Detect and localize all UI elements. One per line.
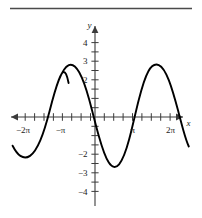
y-tick-label-neg2: −2 [78, 149, 88, 159]
x-axis-label: x [186, 118, 191, 128]
x-tick-label-neg2pi: −2π [16, 125, 31, 135]
y-tick-label-neg4: −4 [78, 187, 88, 197]
sinusoid-curve [13, 65, 189, 167]
x-tick-label-negpi: −π [56, 125, 66, 135]
y-tick-label-3: 3 [83, 56, 88, 66]
y-axis-arrow-up [92, 26, 99, 33]
x-tick-label-pi: π [131, 125, 136, 135]
y-tick-label-neg3: −3 [78, 168, 88, 178]
y-tick-label-2: 2 [83, 75, 88, 85]
x-tick-label-2pi: 2π [166, 125, 176, 135]
x-axis [11, 114, 183, 121]
y-axis-label: y [87, 20, 92, 30]
y-tick-label-4: 4 [83, 38, 88, 48]
trig-graph-figure: −2π −π π 2π 4 3 2 −2 −3 −4 y x [0, 0, 202, 218]
graph-svg: −2π −π π 2π 4 3 2 −2 −3 −4 y x [0, 0, 202, 218]
x-axis-arrow-left [11, 114, 18, 121]
